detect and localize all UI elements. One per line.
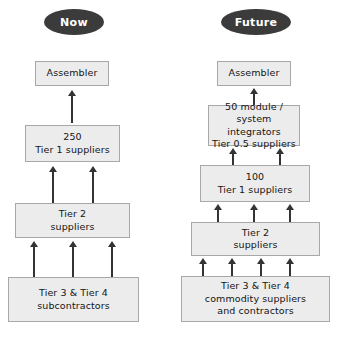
box-label: Tier 2 suppliers [16,208,129,233]
box-label: Assembler [36,67,108,80]
arrow-up-icon [257,258,266,277]
box-label: 100 Tier 1 suppliers [201,171,309,196]
box-now-tier-1-suppliers: 250 Tier 1 suppliers [25,125,120,162]
column-header-now-pill: Now [44,9,104,35]
box-future-tier-2-suppliers: Tier 2 suppliers [191,222,320,256]
box-future-tier-1-suppliers: 100 Tier 1 suppliers [200,165,310,202]
box-label: Assembler [218,67,290,80]
column-now: Now Assembler 250 Tier 1 suppliers Tier … [0,0,171,339]
box-now-tier-2-suppliers: Tier 2 suppliers [15,203,130,238]
arrow-up-icon [49,166,58,203]
arrow-up-icon [30,241,39,277]
column-header-future-pill: Future [221,9,291,35]
arrow-up-icon [228,258,237,277]
box-label: 250 Tier 1 suppliers [26,131,119,156]
box-future-tier-3-4-commodity-suppliers: Tier 3 & Tier 4 commodity suppliers and … [181,276,330,322]
box-label: Tier 2 suppliers [192,227,319,252]
column-header-now-label: Now [60,16,88,29]
arrow-up-icon [68,90,77,123]
arrow-up-icon [69,241,78,277]
box-label: 50 module / system integrators Tier 0.5 … [209,101,299,151]
arrow-up-icon [214,204,223,223]
arrow-up-icon [286,204,295,223]
column-header-future-label: Future [235,16,278,29]
box-future-tier-0-5-suppliers: 50 module / system integrators Tier 0.5 … [208,105,300,146]
box-now-tier-3-4-subcontractors: Tier 3 & Tier 4 subcontractors [8,277,139,322]
arrow-up-icon [89,166,98,203]
box-label: Tier 3 & Tier 4 subcontractors [9,287,138,312]
supply-chain-tier-diagram: Now Assembler 250 Tier 1 suppliers Tier … [0,0,342,339]
arrow-up-icon [108,241,117,277]
arrow-up-icon [199,258,208,277]
column-future: Future Assembler 50 module / system inte… [171,0,342,339]
box-label: Tier 3 & Tier 4 commodity suppliers and … [182,280,329,318]
box-now-assembler: Assembler [35,61,109,86]
arrow-up-icon [229,148,238,166]
box-future-assembler: Assembler [217,61,291,86]
arrow-up-icon [286,258,295,277]
arrow-up-icon [250,204,259,223]
arrow-up-icon [276,148,285,166]
